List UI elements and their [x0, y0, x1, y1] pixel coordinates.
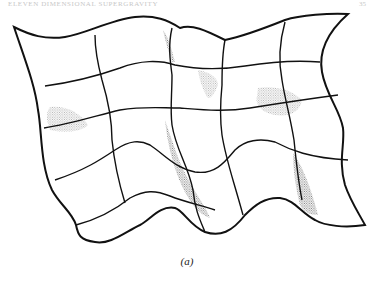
shade-upper-mid: [198, 70, 218, 98]
shade-top-fold: [163, 30, 175, 62]
grid-line-h1: [45, 61, 320, 86]
page-number: 35: [359, 0, 366, 8]
shade-center-fold: [165, 120, 210, 218]
figure-caption: (a): [0, 255, 374, 267]
running-head: ELEVEN DIMENSIONAL SUPERGRAVITY: [8, 0, 158, 8]
grid-line-v1: [95, 35, 125, 203]
curved-grid-surface-figure: [0, 8, 374, 256]
shading-regions: [47, 30, 318, 218]
